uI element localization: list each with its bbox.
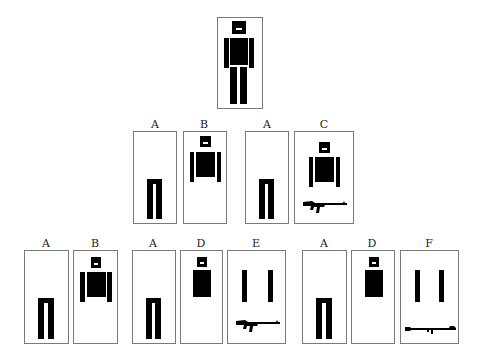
part-a-legs xyxy=(24,250,69,344)
rocket-launcher-icon xyxy=(405,325,456,335)
right-leg xyxy=(326,298,332,339)
part-a-legs xyxy=(245,131,289,224)
label-d: D xyxy=(191,238,211,250)
left-leg xyxy=(147,179,153,219)
left-arm xyxy=(190,152,194,182)
part-c-armed-upper-body xyxy=(294,131,354,224)
right-arm xyxy=(217,152,221,182)
left-leg xyxy=(38,298,44,339)
hip xyxy=(316,298,332,303)
hip xyxy=(146,298,161,303)
label-f: F xyxy=(419,238,439,250)
label-a: A xyxy=(145,119,165,131)
hip xyxy=(38,298,54,303)
torso xyxy=(230,38,248,65)
left-arm xyxy=(224,38,229,68)
torso xyxy=(87,272,106,297)
label-a: A xyxy=(36,238,56,250)
root-figure-panel xyxy=(217,17,263,109)
left-leg xyxy=(316,298,322,339)
head xyxy=(200,136,211,147)
right-leg xyxy=(48,298,54,339)
label-b: B xyxy=(194,119,214,131)
part-f-arms-launcher xyxy=(400,250,459,344)
right-leg xyxy=(268,179,274,219)
head xyxy=(232,21,246,34)
right-arm xyxy=(249,38,254,68)
right-arm xyxy=(336,157,340,187)
part-b-upper-body xyxy=(73,250,118,344)
torso xyxy=(315,157,334,182)
left-arm xyxy=(242,270,247,302)
left-leg xyxy=(230,67,237,104)
left-arm xyxy=(80,272,85,302)
label-d: D xyxy=(362,238,382,250)
face-mark xyxy=(372,262,376,264)
hip xyxy=(147,179,162,184)
face-mark xyxy=(322,148,327,150)
part-e-arms-rifle xyxy=(227,250,286,344)
head xyxy=(197,257,207,267)
left-arm xyxy=(309,157,313,187)
torso xyxy=(365,270,383,297)
head xyxy=(91,257,101,268)
rifle-icon xyxy=(303,198,347,214)
right-leg xyxy=(156,179,162,219)
torso xyxy=(196,152,215,177)
label-c: C xyxy=(314,119,334,131)
right-leg xyxy=(155,298,161,339)
part-a-legs xyxy=(302,250,347,344)
part-a-legs xyxy=(133,131,177,224)
label-b: B xyxy=(85,238,105,250)
right-arm xyxy=(268,270,273,302)
face-mark xyxy=(203,142,208,144)
part-a-legs xyxy=(132,250,176,344)
left-arm xyxy=(415,270,420,302)
right-arm xyxy=(439,270,444,302)
head xyxy=(369,257,379,267)
left-leg xyxy=(259,179,265,219)
rifle-icon xyxy=(235,317,281,333)
part-d-head-torso xyxy=(180,250,223,344)
face-mark xyxy=(94,263,98,265)
label-a: A xyxy=(257,119,277,131)
part-b-upper-body xyxy=(183,131,227,224)
label-a: A xyxy=(143,238,163,250)
right-arm xyxy=(107,272,112,302)
face-mark xyxy=(236,28,242,30)
head xyxy=(319,142,330,153)
face-mark xyxy=(200,262,204,264)
part-d-head-torso xyxy=(351,250,395,344)
left-leg xyxy=(146,298,152,339)
torso xyxy=(193,270,211,297)
label-e: E xyxy=(246,238,266,250)
right-leg xyxy=(240,67,247,104)
hip xyxy=(259,179,274,184)
label-a: A xyxy=(314,238,334,250)
